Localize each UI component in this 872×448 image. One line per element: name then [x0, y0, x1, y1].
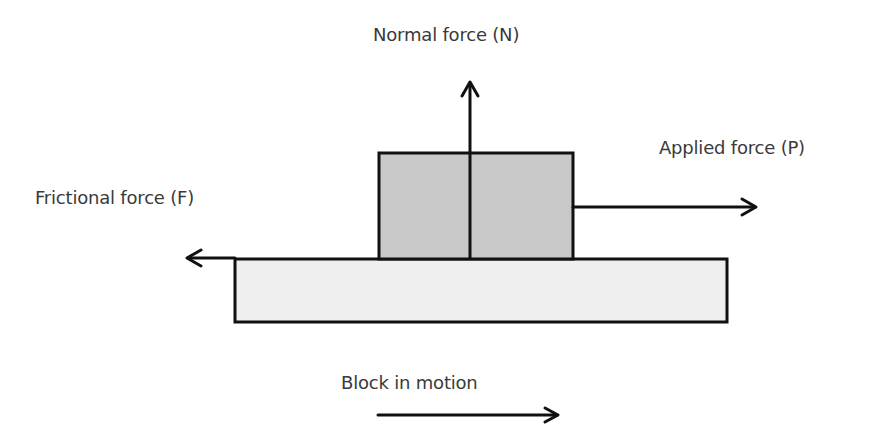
motion-arrow	[378, 408, 558, 422]
motion-label: Block in motion	[341, 372, 478, 393]
block	[379, 153, 573, 259]
normal-force-label: Normal force (N)	[373, 24, 519, 45]
frictional-force-arrow	[187, 250, 235, 266]
frictional-force-label: Frictional force (F)	[35, 187, 194, 208]
applied-force-label: Applied force (P)	[659, 137, 805, 158]
surface-slab	[235, 259, 727, 322]
free-body-diagram: Normal force (N) Applied force (P) Frict…	[0, 0, 872, 448]
applied-force-arrow	[573, 199, 756, 215]
